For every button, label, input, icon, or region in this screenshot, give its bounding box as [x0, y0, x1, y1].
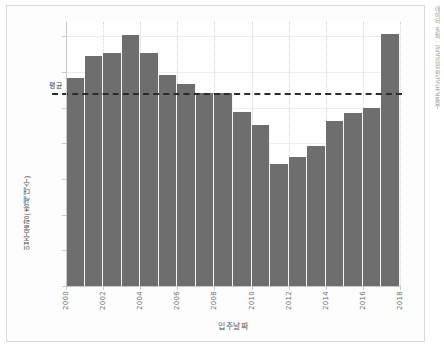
bar[interactable]: [289, 157, 308, 286]
x-axis-title: 입주날짜: [66, 320, 400, 331]
x-axis-line: [66, 286, 400, 287]
bar[interactable]: [307, 146, 326, 286]
x-tick-mark: [289, 286, 290, 290]
bar[interactable]: [214, 93, 233, 286]
x-tick-mark: [214, 286, 215, 290]
bar[interactable]: [381, 34, 400, 286]
x-tick-mark: [177, 286, 178, 290]
x-tick-label: 2018: [396, 291, 404, 310]
bar-series: [66, 22, 400, 286]
bar[interactable]: [196, 93, 215, 286]
x-tick-label: 2000: [62, 291, 70, 310]
bar[interactable]: [159, 75, 178, 286]
bar[interactable]: [177, 84, 196, 286]
y-tick-mark: [62, 215, 66, 216]
y-tick-mark: [62, 72, 66, 73]
x-tick-label: 2004: [136, 291, 144, 310]
x-tick-label: 2016: [359, 291, 367, 310]
gridline-vertical: [400, 22, 401, 286]
average-line: [52, 93, 402, 95]
y-tick-mark: [62, 143, 66, 144]
y-tick-mark: [62, 250, 66, 251]
bar[interactable]: [270, 164, 289, 286]
bar[interactable]: [140, 53, 159, 286]
x-tick-mark: [103, 286, 104, 290]
x-tick-label: 2014: [322, 291, 330, 310]
bar[interactable]: [252, 125, 271, 286]
bar[interactable]: [66, 78, 85, 286]
y-axis-title: 입주물량(총세대수): [22, 175, 33, 250]
x-tick-mark: [400, 286, 401, 290]
x-tick-label: 2008: [210, 291, 218, 310]
y-tick-mark: [62, 179, 66, 180]
bar[interactable]: [233, 112, 252, 286]
plot-area: [66, 22, 400, 286]
y-tick-mark: [62, 36, 66, 37]
x-tick-label: 2006: [173, 291, 181, 310]
x-tick-mark: [363, 286, 364, 290]
bar[interactable]: [344, 113, 363, 286]
x-tick-label: 2002: [99, 291, 107, 310]
chart-figure: 평균 0K50K100K150K200K250K300K350K 2000200…: [0, 0, 444, 349]
bar[interactable]: [85, 56, 104, 286]
bar[interactable]: [103, 53, 122, 286]
x-tick-label: 2012: [285, 291, 293, 310]
x-tick-mark: [66, 286, 67, 290]
bar[interactable]: [326, 121, 345, 286]
source-caption: 데이터 출처 : 한국감정원/국토교통부: [434, 6, 442, 109]
bar[interactable]: [122, 35, 141, 286]
x-tick-mark: [140, 286, 141, 290]
y-tick-mark: [62, 108, 66, 109]
x-tick-label: 2010: [248, 291, 256, 310]
x-tick-mark: [252, 286, 253, 290]
bar[interactable]: [363, 108, 382, 286]
y-axis-line: [66, 22, 67, 286]
x-tick-mark: [326, 286, 327, 290]
